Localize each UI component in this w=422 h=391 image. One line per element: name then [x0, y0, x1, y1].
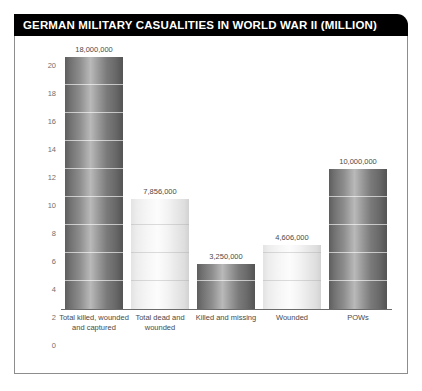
bar[interactable]	[197, 264, 255, 310]
bar-value-label: 10,000,000	[339, 157, 377, 166]
y-axis-tick: 20	[34, 61, 56, 70]
gridline	[263, 280, 321, 281]
gridline	[65, 196, 123, 197]
bar-slot: 18,000,000	[61, 29, 127, 309]
y-axis-tick: 14	[34, 145, 56, 154]
gridline	[197, 280, 255, 281]
bar[interactable]	[65, 57, 123, 309]
gridline	[329, 280, 387, 281]
bar-slot: 7,856,000	[127, 29, 193, 309]
gridline	[329, 224, 387, 225]
x-axis-label: Total dead and wounded	[122, 313, 198, 333]
bar[interactable]	[131, 199, 189, 309]
y-axis-tick: 0	[34, 341, 56, 350]
y-axis-tick: 8	[34, 229, 56, 238]
x-axis-label: POWs	[320, 313, 396, 323]
bar-value-label: 7,856,000	[143, 187, 176, 196]
y-axis: 02468101214161820	[30, 0, 56, 338]
gridline	[131, 280, 189, 281]
bar-slot: 10,000,000	[325, 29, 391, 309]
bar[interactable]	[263, 245, 321, 309]
y-axis-tick: 4	[34, 285, 56, 294]
gridline	[65, 224, 123, 225]
bar-value-label: 4,606,000	[275, 233, 308, 242]
gridline	[65, 112, 123, 113]
gridline	[329, 196, 387, 197]
gridline	[65, 280, 123, 281]
y-axis-tick: 2	[34, 313, 56, 322]
chart-screenshot: GERMAN MILITARY CASUALITIES IN WORLD WAR…	[0, 0, 422, 391]
y-axis-tick: 16	[34, 117, 56, 126]
x-axis-label: Killed and missing	[188, 313, 264, 323]
x-axis-label: Total killed, wounded and captured	[56, 313, 132, 333]
y-axis-tick: 10	[34, 201, 56, 210]
gridline	[263, 252, 321, 253]
gridline	[131, 252, 189, 253]
y-axis-tick: 18	[34, 89, 56, 98]
plot-area: 18,000,0007,856,0003,250,0004,606,00010,…	[61, 29, 391, 309]
gridline	[65, 252, 123, 253]
bar[interactable]	[329, 169, 387, 309]
y-axis-tick: 6	[34, 257, 56, 266]
bar-slot: 3,250,000	[193, 29, 259, 309]
x-axis-label: Wounded	[254, 313, 330, 323]
bar-value-label: 18,000,000	[75, 45, 113, 54]
y-axis-tick: 12	[34, 173, 56, 182]
gridline	[131, 224, 189, 225]
gridline	[65, 84, 123, 85]
bar-slot: 4,606,000	[259, 29, 325, 309]
x-axis-baseline	[61, 309, 392, 310]
gridline	[65, 140, 123, 141]
gridline	[329, 252, 387, 253]
gridline	[65, 168, 123, 169]
bar-value-label: 3,250,000	[209, 252, 242, 261]
